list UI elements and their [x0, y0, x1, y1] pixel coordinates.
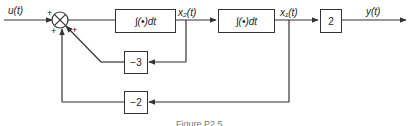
- integrator-block-1-label: ∫(•)dt: [135, 16, 156, 27]
- sum-sign-left: +: [47, 9, 52, 18]
- output-signal-label: y(t): [366, 7, 380, 17]
- input-signal-label: u(t): [8, 6, 23, 16]
- feedback-gain-x1-block: −2: [124, 91, 148, 114]
- output-gain-block: 2: [320, 9, 342, 33]
- feedback-gain-x2-block: −3: [124, 51, 148, 74]
- integrator-block-2-label: ∫(•)dt: [236, 16, 257, 27]
- figure-caption: Figure P2.5: [176, 119, 223, 126]
- diagram-wires: [0, 0, 410, 126]
- x1-signal-label: x₁(t): [280, 8, 298, 18]
- output-gain-label: 2: [328, 16, 334, 27]
- feedback-gain-x1-label: −2: [130, 97, 141, 108]
- integrator-block-1: ∫(•)dt: [115, 9, 176, 33]
- x2-signal-label: x₂(t): [178, 8, 196, 18]
- integrator-block-2: ∫(•)dt: [218, 9, 275, 33]
- sum-sign-bottom-left: +: [51, 27, 56, 36]
- feedback-gain-x2-label: −3: [130, 57, 141, 68]
- sum-sign-right: +: [72, 26, 77, 35]
